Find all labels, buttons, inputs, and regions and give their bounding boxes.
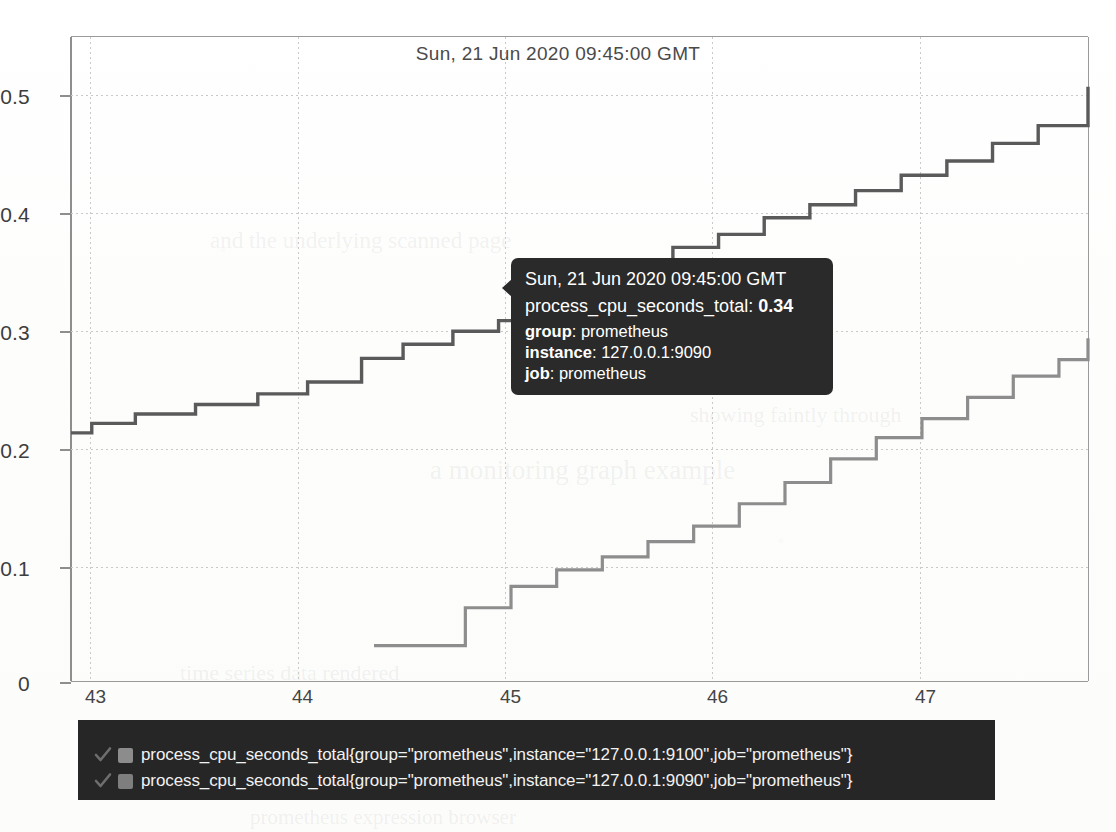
ghost-text-4: prometheus expression browser xyxy=(250,805,516,830)
ytick-label-0.5: 0.5 xyxy=(0,85,30,109)
ytick-label-0: 0 xyxy=(18,672,30,696)
checkmark-icon[interactable] xyxy=(94,746,112,764)
ytick-label-0.2: 0.2 xyxy=(0,439,30,463)
xtick-label-43: 43 xyxy=(85,686,106,708)
xtick-label-46: 46 xyxy=(707,686,728,708)
xtick-label-44: 44 xyxy=(292,686,313,708)
tooltip-label-sep-job: : xyxy=(550,364,559,382)
tooltip-metric: process_cpu_seconds_total: 0.34 xyxy=(525,294,820,318)
tooltip-metric-value: 0.34 xyxy=(758,296,793,316)
ytick-mark-0 xyxy=(60,682,71,684)
hover-tooltip: Sun, 21 Jun 2020 09:45:00 GMT process_cp… xyxy=(511,258,833,395)
ytick-label-0.4: 0.4 xyxy=(0,203,30,227)
tooltip-label-key-instance: instance xyxy=(525,343,592,361)
tooltip-metric-name: process_cpu_seconds_total: xyxy=(525,296,753,316)
ytick-label-0.1: 0.1 xyxy=(0,557,30,581)
legend-label-9100: process_cpu_seconds_total{group="prometh… xyxy=(141,745,852,765)
xtick-label-47: 47 xyxy=(915,686,936,708)
tooltip-arrow-icon xyxy=(502,279,512,297)
tooltip-label-value-job: prometheus xyxy=(559,364,646,382)
tooltip-timestamp: Sun, 21 Jun 2020 09:45:00 GMT xyxy=(525,267,820,291)
tooltip-label-group: group: prometheus xyxy=(525,321,820,342)
tooltip-label-key-job: job xyxy=(525,364,550,382)
checkmark-icon[interactable] xyxy=(94,772,112,790)
tooltip-label-instance: instance: 127.0.0.1:9090 xyxy=(525,342,820,363)
legend-item[interactable]: process_cpu_seconds_total{group="prometh… xyxy=(78,742,995,768)
tooltip-label-sep-instance: : xyxy=(592,343,601,361)
x-axis-line xyxy=(71,681,1088,682)
chart-legend: process_cpu_seconds_total{group="prometh… xyxy=(78,720,995,800)
tooltip-label-value-group: prometheus xyxy=(581,322,668,340)
tooltip-label-key-group: group xyxy=(525,322,572,340)
tooltip-label-value-instance: 127.0.0.1:9090 xyxy=(601,343,711,361)
tooltip-label-sep-group: : xyxy=(572,322,581,340)
legend-color-swatch-9090[interactable] xyxy=(118,774,133,789)
legend-color-swatch-9100[interactable] xyxy=(118,748,133,763)
tooltip-label-job: job: prometheus xyxy=(525,363,820,384)
legend-item[interactable]: process_cpu_seconds_total{group="prometh… xyxy=(78,768,995,794)
legend-label-9090: process_cpu_seconds_total{group="prometh… xyxy=(141,771,852,791)
xtick-label-45: 45 xyxy=(500,686,521,708)
ytick-label-0.3: 0.3 xyxy=(0,321,30,345)
